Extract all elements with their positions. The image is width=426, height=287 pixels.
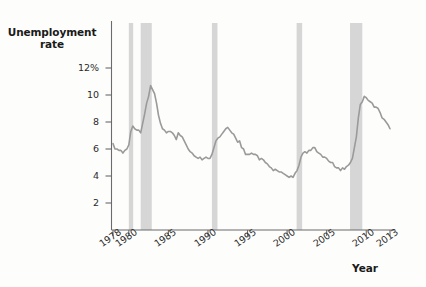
y-tick-label: 6 [59, 143, 99, 154]
y-tick-label: 12% [59, 62, 99, 73]
recession-band [350, 23, 362, 230]
y-tick-label: 8 [59, 116, 99, 127]
series-line [113, 86, 390, 178]
y-tick-label: 4 [59, 170, 99, 181]
recession-band [297, 23, 303, 230]
recession-band [212, 23, 218, 230]
y-tick-label: 10 [59, 89, 99, 100]
unemployment-rate-chart: Unemployment rate Year 12%10864219781980… [0, 0, 426, 287]
y-tick-label: 2 [59, 197, 99, 208]
